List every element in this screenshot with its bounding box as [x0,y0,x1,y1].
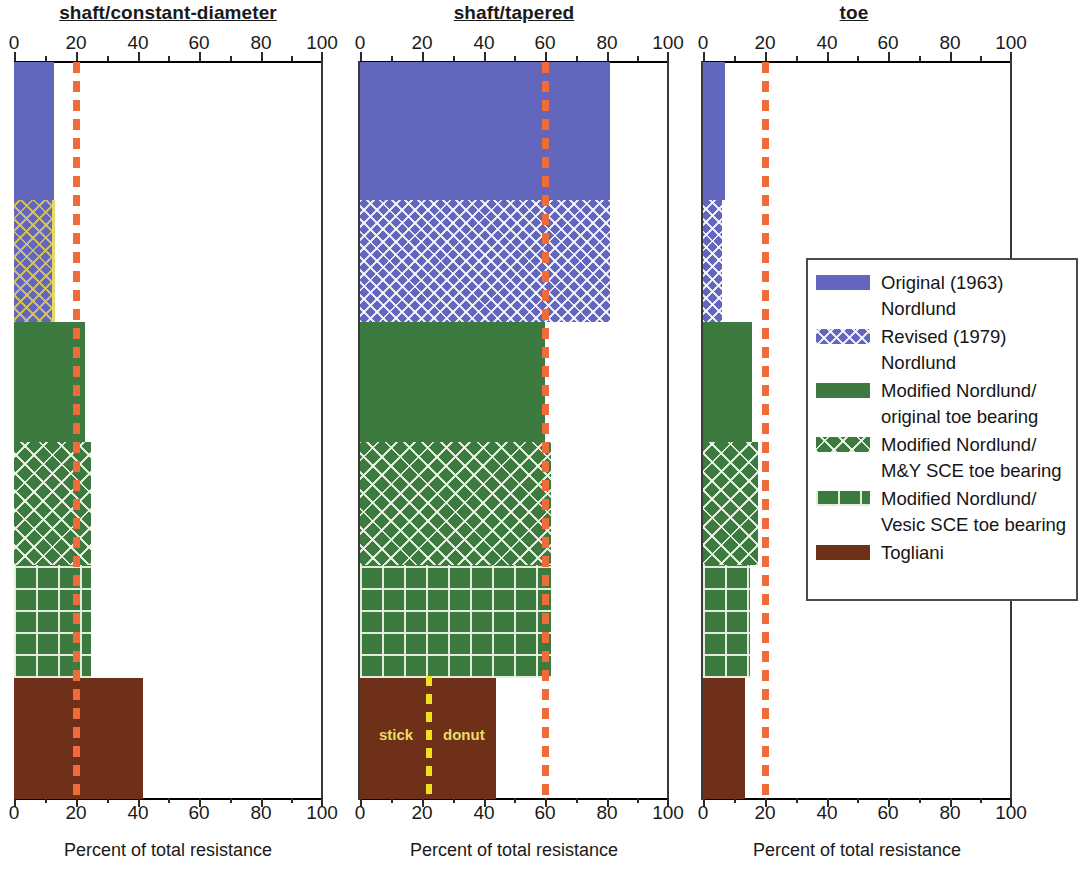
xtick-label: 20 [65,32,86,54]
axis-labels-bottom: 0 20 40 60 80 100 [0,802,345,826]
inbar-label-stick: stick [379,726,413,743]
xtick-minor [514,56,516,61]
bar-togliani [703,678,745,799]
legend-swatch-icon [816,437,870,452]
panel-shaft-constant-diameter: shaft/constant-diameter 0 20 40 60 80 10… [0,0,345,880]
legend-swatch-icon [816,383,870,398]
xtick [138,52,140,61]
axis-labels-bottom: 0 20 40 60 80 100 [689,802,1078,826]
xtick-minor [107,56,109,61]
xtick-label: 0 [698,802,709,824]
stick-donut-divider-line [426,676,432,799]
xtick-minor [291,56,293,61]
legend-label: Modified Nordlund/ M&Y SCE toe bearing [881,432,1062,484]
xtick-minor [734,56,736,61]
axis-caption: Percent of total resistance [689,840,1025,861]
xtick-label: 20 [65,802,86,824]
legend-item-togliani: Togliani [808,540,1076,566]
axis-caption: Percent of total resistance [346,840,682,861]
xtick [360,52,362,61]
xtick-minor [796,56,798,61]
bar-revised-nordlund [360,200,610,322]
bar-revised-nordlund [14,200,55,322]
reference-line-20 [762,62,769,799]
xtick-minor [980,56,982,61]
legend-swatch-icon [816,329,870,344]
xtick-label: 80 [596,802,617,824]
legend-item-revised-nordlund: Revised (1979) Nordlund [808,324,1076,376]
xtick [888,52,890,61]
axis-labels-top: 0 20 40 60 80 100 [689,32,1078,56]
xtick-label: 20 [754,802,775,824]
reference-line-60 [542,62,549,799]
xtick [545,52,547,61]
xtick-label: 100 [306,802,338,824]
xtick-label: 80 [939,802,960,824]
panel-title: shaft/tapered [346,2,682,24]
figure-root: shaft/constant-diameter 0 20 40 60 80 10… [0,0,1078,880]
panel-shaft-tapered: shaft/tapered 0 20 40 60 80 100 [346,0,691,880]
xtick [199,52,201,61]
xtick-minor [919,56,921,61]
axis-labels-top: 0 20 40 60 80 100 [346,32,691,56]
bar-original-nordlund [360,62,610,200]
bar-modified-original-toe [703,322,752,442]
legend-label: Revised (1979) Nordlund [881,324,1006,376]
bar-original-nordlund [14,62,54,200]
bar-modified-vesic-sce-toe [703,565,750,678]
xtick-label: 0 [9,802,20,824]
legend-item-modified-original-toe: Modified Nordlund/ original toe bearing [808,378,1076,430]
xtick-label: 60 [534,32,555,54]
xtick-minor [230,56,232,61]
xtick [765,52,767,61]
xtick [422,52,424,61]
xtick-label: 0 [9,32,20,54]
xtick-label: 20 [754,32,775,54]
xtick-label: 100 [995,802,1027,824]
plot-area [14,62,322,799]
xtick-label: 60 [877,802,898,824]
xtick-label: 40 [127,802,148,824]
xtick [76,52,78,61]
legend-label: Modified Nordlund/ Vesic SCE toe bearing [881,486,1066,538]
xtick-label: 0 [355,802,366,824]
bar-modified-my-sce-toe [703,442,758,565]
xtick [14,52,16,61]
xtick-minor [453,56,455,61]
xtick-label: 40 [816,802,837,824]
bar-original-nordlund [703,62,725,200]
axis-labels-bottom: 0 20 40 60 80 100 [346,802,691,826]
panel-title: shaft/constant-diameter [0,2,336,24]
legend-swatch-icon [816,275,870,290]
xtick-label: 100 [652,802,684,824]
legend-label: Original (1963) Nordlund [881,270,1003,322]
xtick-label: 100 [306,32,338,54]
xtick-minor [45,56,47,61]
xtick-label: 100 [995,32,1027,54]
xtick-minor [576,56,578,61]
xtick-label: 20 [411,802,432,824]
xtick-label: 80 [596,32,617,54]
xtick-label: 100 [652,32,684,54]
xtick [667,52,669,61]
xtick-label: 80 [250,32,271,54]
xtick [607,52,609,61]
panel-title: toe [689,2,1019,24]
legend-item-original-nordlund: Original (1963) Nordlund [808,270,1076,322]
xtick-label: 0 [355,32,366,54]
plot-area [360,62,668,799]
xtick-minor [637,56,639,61]
bar-modified-original-toe [360,322,545,442]
xtick [261,52,263,61]
xtick-minor [857,56,859,61]
legend: Original (1963) Nordlund Revised (1979) … [806,258,1078,601]
axis-caption: Percent of total resistance [0,840,336,861]
xtick-label: 80 [939,32,960,54]
legend-item-modified-my-sce-toe: Modified Nordlund/ M&Y SCE toe bearing [808,432,1076,484]
xtick-label: 60 [188,802,209,824]
legend-swatch-icon [816,491,870,506]
xtick-label: 60 [534,802,555,824]
xtick [1010,52,1012,61]
legend-label: Modified Nordlund/ original toe bearing [881,378,1038,430]
xtick-label: 60 [188,32,209,54]
